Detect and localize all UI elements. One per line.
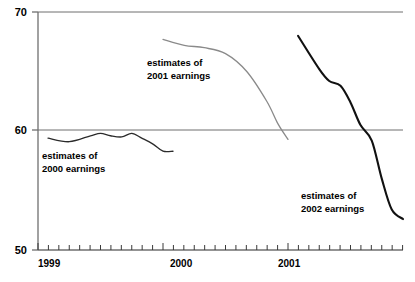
x-axis-label-2001: 2001 [278,258,301,269]
x-axis-label-1999: 1999 [38,258,61,269]
annotation-2001-line2: 2001 earnings [147,70,210,81]
annotation-2002-line2: 2002 earnings [301,203,364,214]
annotation-2000-line2: 2000 earnings [42,163,105,174]
annotation-2001-line1: estimates of [147,57,203,68]
line-chart: 70 60 50 1999 2000 2001 estimates of 200… [0,0,415,282]
y-axis-label-50: 50 [15,244,27,256]
chart-container: 70 60 50 1999 2000 2001 estimates of 200… [0,0,415,282]
x-axis-label-2000: 2000 [170,258,193,269]
y-axis-label-70: 70 [15,6,27,18]
annotation-2000-line1: estimates of [42,150,98,161]
y-axis-label-60: 60 [15,124,27,136]
annotation-2002-line1: estimates of [301,190,357,201]
